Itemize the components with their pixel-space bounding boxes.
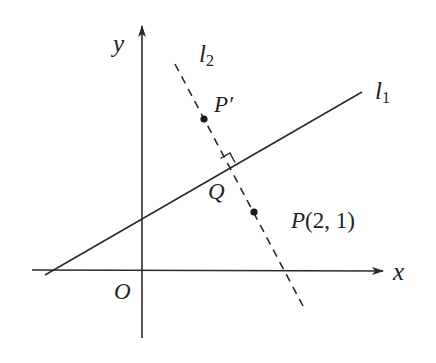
point-p-prime-label: P′ [213, 92, 234, 117]
point-p-label: P(2, 1) [290, 208, 355, 233]
point-p-prime [200, 115, 207, 122]
origin-label: O [114, 279, 131, 304]
line-l2-label: l2 [199, 40, 214, 69]
x-axis [32, 270, 383, 271]
x-axis-label: x [392, 258, 404, 285]
point-q-label: Q [208, 179, 225, 204]
point-p [250, 208, 257, 215]
line-l1-label: l1 [375, 77, 390, 106]
diagram-canvas: y x O l2 l1 P′ Q P(2, 1) [0, 0, 436, 363]
y-axis-label: y [110, 30, 125, 57]
